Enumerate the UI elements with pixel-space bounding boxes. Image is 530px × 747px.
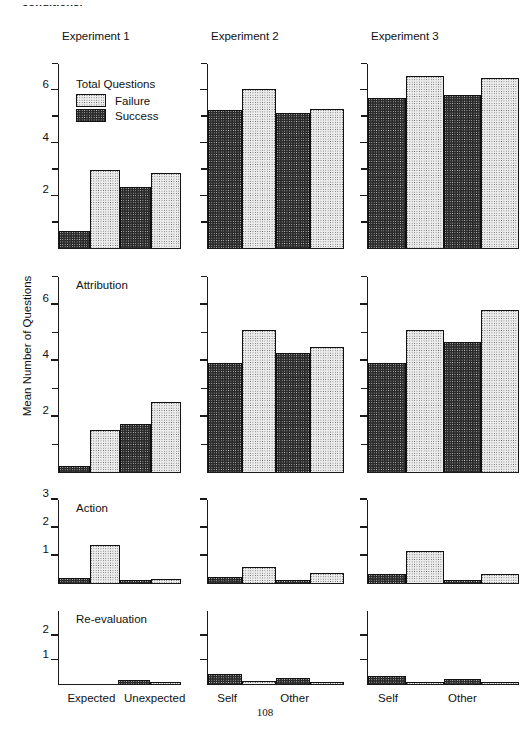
- bar-failure-2: [90, 545, 120, 582]
- y-tick-minor: [361, 388, 367, 389]
- bar-failure-4: [151, 173, 181, 248]
- x-axis-line: [58, 684, 181, 685]
- panel-c1-r2: 246Attribution: [58, 277, 181, 473]
- y-tick-major: [360, 415, 368, 417]
- y-tick-major: [360, 526, 368, 528]
- y-tick-major: [360, 195, 368, 197]
- legend-item-failure[interactable]: Failure: [76, 94, 158, 107]
- bar-failure-4: [310, 682, 344, 684]
- y-tick-major: [360, 554, 368, 556]
- bar-success-1: [208, 577, 242, 583]
- bar-failure-2: [242, 567, 276, 582]
- plot-area: [207, 611, 344, 685]
- y-tick-minor: [361, 276, 367, 277]
- y-tick-minor: [201, 444, 207, 445]
- y-tick-minor: [361, 332, 367, 333]
- plot-area: [207, 500, 344, 584]
- y-tick-minor: [52, 388, 58, 389]
- y-tick-label: 2: [43, 406, 49, 418]
- bar-success-3: [120, 580, 150, 583]
- panel-c2-r1: [207, 64, 344, 249]
- panel-c3-r2: [367, 277, 519, 473]
- bar-group: [368, 64, 519, 248]
- x-tick-label-other: Other: [280, 692, 309, 704]
- legend-title: Total Questions: [76, 78, 158, 90]
- bar-group: [208, 64, 344, 248]
- bar-failure-4: [481, 574, 519, 582]
- plot-area: [207, 64, 344, 249]
- y-tick-major: [200, 359, 208, 361]
- y-tick-label: 3: [43, 489, 49, 501]
- y-tick-major: [200, 526, 208, 528]
- bar-failure-4: [481, 78, 519, 247]
- x-tick-label-unexpected: Unexpected: [124, 692, 185, 704]
- page-number: 108: [0, 706, 530, 718]
- y-tick-major: [51, 498, 59, 500]
- column-title-2: Experiment 2: [211, 30, 279, 42]
- bar-success-1: [368, 363, 406, 471]
- y-tick-major: [51, 195, 59, 197]
- y-tick-minor: [201, 221, 207, 222]
- bar-failure-4: [150, 682, 181, 684]
- bar-success-3: [444, 342, 482, 471]
- bar-success-3: [276, 678, 310, 683]
- panel-caption-row2: Attribution: [76, 279, 128, 291]
- bar-failure-2: [406, 330, 444, 472]
- y-tick-major: [360, 142, 368, 144]
- column-title-1: Experiment 1: [62, 30, 130, 42]
- y-tick-major: [51, 634, 59, 636]
- plot-area: [367, 611, 519, 685]
- bar-success-1: [368, 98, 406, 248]
- y-tick-minor: [52, 444, 58, 445]
- bar-success-3: [276, 113, 310, 248]
- y-tick-label: 6: [43, 294, 49, 306]
- bar-failure-2: [242, 330, 276, 472]
- y-tick-label: 2: [43, 517, 49, 529]
- x-axis-line: [58, 583, 181, 584]
- bar-success-1: [208, 674, 242, 684]
- y-tick-minor: [52, 221, 58, 222]
- legend-item-success[interactable]: Success: [76, 109, 158, 122]
- y-tick-major: [200, 554, 208, 556]
- bar-failure-2: [90, 430, 120, 472]
- bar-success-1: [208, 110, 242, 248]
- legend-label: Failure: [115, 95, 150, 107]
- x-axis-line: [207, 684, 344, 685]
- y-tick-major: [360, 498, 368, 500]
- bar-success-3: [444, 95, 482, 247]
- panel-c1-r3: 123Action: [58, 500, 181, 584]
- bar-failure-4: [310, 347, 344, 472]
- y-tick-major: [51, 89, 59, 91]
- bar-failure-2: [406, 76, 444, 248]
- bar-success-1: [368, 676, 406, 684]
- plot-area: [367, 500, 519, 584]
- bar-success-1: [208, 363, 242, 471]
- bar-success-1: [368, 574, 406, 582]
- x-tick-label-self: Self: [378, 692, 398, 704]
- panel-c3-r4: [367, 611, 519, 685]
- legend-swatch-failure-icon: [76, 94, 106, 107]
- y-tick-major: [51, 554, 59, 556]
- x-axis-line: [207, 248, 344, 249]
- y-tick-minor: [52, 332, 58, 333]
- bar-success-3: [444, 580, 482, 582]
- y-tick-major: [360, 89, 368, 91]
- y-tick-major: [200, 634, 208, 636]
- y-tick-minor: [361, 168, 367, 169]
- panel-caption-row4: Re-evaluation: [76, 613, 147, 625]
- y-tick-major: [200, 89, 208, 91]
- y-tick-minor: [361, 444, 367, 445]
- y-axis-label: Mean Number of Questions: [21, 246, 33, 446]
- bar-failure-2: [242, 89, 276, 248]
- y-tick-minor: [201, 332, 207, 333]
- y-tick-major: [51, 659, 59, 661]
- x-axis-line: [58, 248, 181, 249]
- bar-group: [368, 500, 519, 583]
- y-tick-minor: [52, 168, 58, 169]
- bar-failure-4: [481, 310, 519, 471]
- bar-success-3: [444, 679, 482, 684]
- bar-success-1: [59, 231, 89, 248]
- y-tick-major: [51, 142, 59, 144]
- column-title-3: Experiment 3: [371, 30, 439, 42]
- x-tick-label-expected: Expected: [67, 692, 115, 704]
